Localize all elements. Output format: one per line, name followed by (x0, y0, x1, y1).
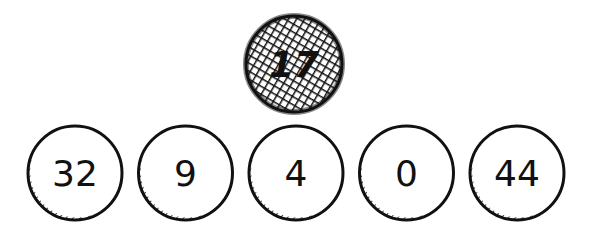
child-ball: 9 (139, 126, 233, 220)
child-ball: 4 (249, 126, 343, 220)
ball-diagram: 17 3294044 (0, 0, 591, 234)
root-ball-label: 17 (269, 44, 319, 85)
child-balls: 3294044 (28, 126, 564, 220)
child-ball: 0 (360, 126, 454, 220)
root-ball: 17 (246, 16, 342, 112)
child-ball-label: 0 (395, 153, 418, 194)
child-ball-label: 9 (174, 153, 197, 194)
child-ball-label: 32 (52, 153, 98, 194)
child-ball-label: 44 (494, 153, 540, 194)
child-ball: 32 (28, 126, 122, 220)
child-ball-label: 4 (285, 153, 308, 194)
child-ball: 44 (470, 126, 564, 220)
